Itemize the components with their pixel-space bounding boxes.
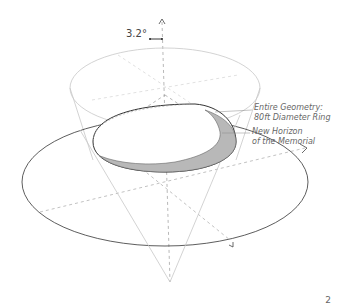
axis-arrow-down-icon [229, 242, 233, 247]
annotation-entire-geometry: Entire Geometry: 80ft Diameter Ring [254, 103, 331, 123]
annotation-line: New Horizon [252, 127, 315, 137]
page-number: 2 [325, 295, 331, 305]
annotation-new-horizon: New Horizon of the Memorial [252, 127, 315, 147]
annotation-line: 80ft Diameter Ring [254, 113, 331, 123]
angle-label: 3.2° [126, 28, 147, 39]
memorial-geometry-diagram [0, 0, 340, 308]
annotation-line: of the Memorial [252, 137, 315, 147]
leader-line-geometry [215, 110, 252, 112]
annotation-line: Entire Geometry: [254, 103, 331, 113]
